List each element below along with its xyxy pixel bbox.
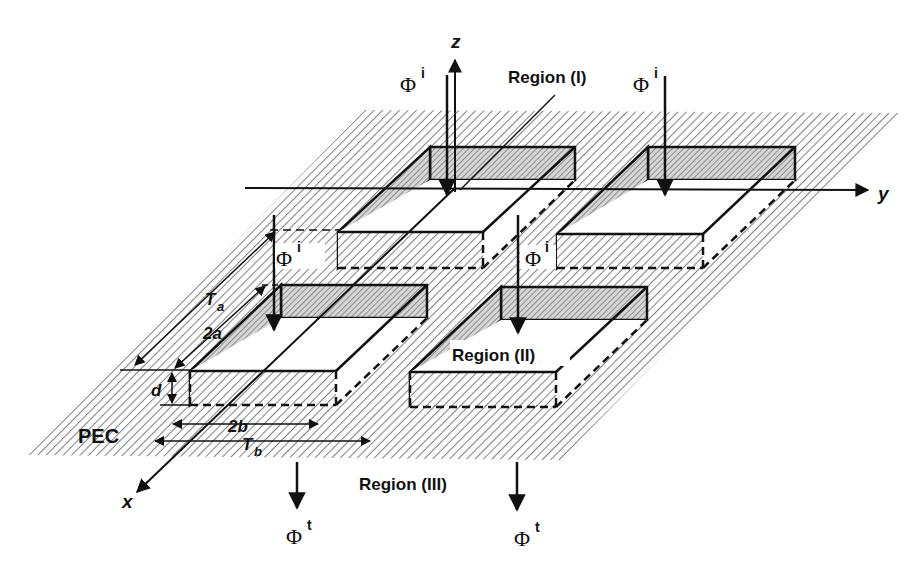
svg-text:Φ: Φ: [286, 524, 302, 549]
phi-incident-2: Φ i: [633, 65, 658, 97]
region-2-label: Region (II): [452, 346, 535, 365]
region-3-label: Region (III): [359, 475, 447, 494]
svg-text:i: i: [421, 65, 425, 81]
svg-text:T: T: [242, 435, 254, 454]
svg-text:Φ: Φ: [400, 72, 416, 97]
svg-text:b: b: [254, 444, 262, 459]
svg-text:Φ: Φ: [514, 526, 530, 551]
phi-incident-1: Φ i: [400, 65, 425, 97]
y-axis-label: y: [877, 183, 890, 204]
svg-text:t: t: [307, 517, 312, 533]
svg-text:a: a: [217, 299, 224, 314]
d-label: d: [151, 381, 162, 400]
pec-label: PEC: [78, 425, 119, 447]
region-1-label: Region (I): [508, 68, 586, 87]
svg-text:Φ: Φ: [525, 246, 541, 271]
svg-text:Φ: Φ: [633, 72, 649, 97]
2b-label: 2b: [227, 417, 248, 436]
phi-transmitted-2: Φ t: [514, 519, 540, 551]
svg-text:T: T: [205, 290, 217, 309]
2a-label: 2a: [202, 324, 222, 343]
x-axis-label: x: [121, 491, 134, 512]
svg-text:Φ: Φ: [276, 246, 292, 271]
z-axis-label: z: [450, 31, 461, 52]
phi-transmitted-1: Φ t: [286, 517, 312, 549]
svg-text:i: i: [297, 239, 301, 255]
pec-aperture-array-diagram: z y x Region (I) Region (II) Region (III…: [0, 0, 924, 574]
svg-text:i: i: [654, 65, 658, 81]
svg-text:t: t: [535, 519, 540, 535]
svg-text:i: i: [545, 239, 549, 255]
